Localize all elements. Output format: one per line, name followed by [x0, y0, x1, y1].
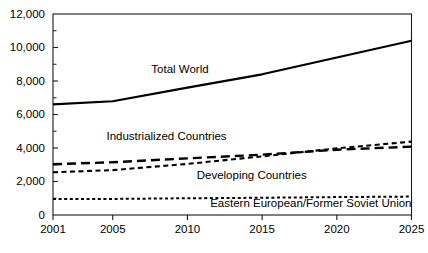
series-label-total-world: Total World — [151, 63, 208, 75]
x-tick-label: 2025 — [399, 223, 425, 235]
x-tick-label: 2020 — [324, 223, 350, 235]
x-tick-label: 2005 — [100, 223, 126, 235]
y-tick-label: 2,000 — [16, 175, 45, 187]
line-chart: 02,0004,0006,0008,00010,00012,0002001200… — [0, 0, 428, 253]
x-tick-label: 2010 — [175, 223, 201, 235]
series-label-eastern-european-former-soviet-union: Eastern European/Former Soviet Union — [210, 197, 411, 209]
series-label-industrialized-countries: Industrialized Countries — [106, 130, 226, 142]
series-line-developing-countries — [53, 142, 412, 173]
y-tick-label: 0 — [39, 209, 45, 221]
series-line-total-world — [53, 41, 412, 105]
series-line-industrialized-countries — [53, 147, 412, 165]
x-tick-label: 2015 — [249, 223, 275, 235]
x-tick-label: 2001 — [40, 223, 66, 235]
chart-container: 02,0004,0006,0008,00010,00012,0002001200… — [0, 0, 428, 253]
y-tick-label: 12,000 — [10, 8, 45, 20]
y-tick-label: 10,000 — [10, 41, 45, 53]
plot-frame — [53, 14, 412, 215]
y-tick-label: 4,000 — [16, 142, 45, 154]
series-label-developing-countries: Developing Countries — [197, 169, 307, 181]
y-tick-label: 8,000 — [16, 75, 45, 87]
y-tick-label: 6,000 — [16, 108, 45, 120]
